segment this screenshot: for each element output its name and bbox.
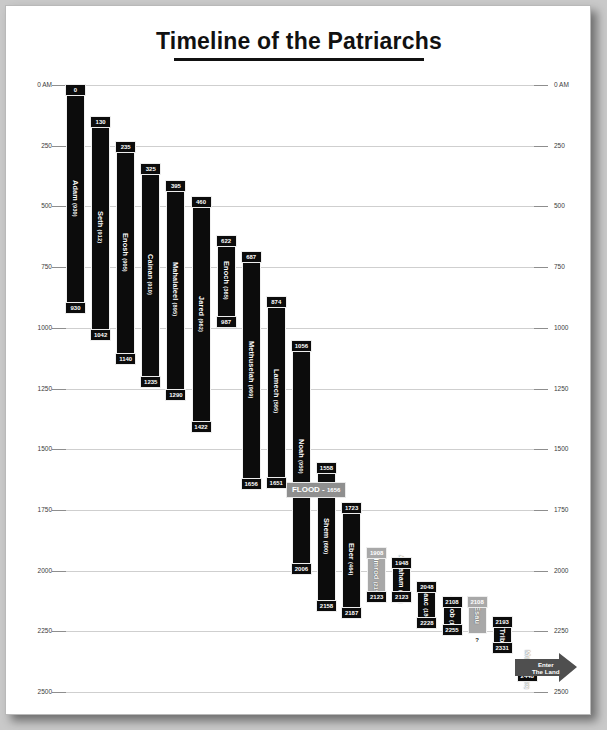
bar-lamech[interactable]: Lamech (595) — [267, 297, 286, 486]
tick-dash-left-1750 — [52, 510, 66, 511]
axis-tick-left-1250: 1250 — [16, 385, 52, 392]
tick-dash-left-1000 — [52, 328, 66, 329]
bar-methuselah[interactable]: Methuselah (969) — [242, 252, 261, 487]
axis-tick-right-1500: 1500 — [554, 445, 591, 452]
bar-start-year-shem: 1558 — [316, 462, 337, 474]
bar-start-year-methuselah: 687 — [241, 251, 262, 263]
tick-dash-right-2250 — [534, 631, 548, 632]
bar-adam[interactable]: Adam (930) — [66, 85, 85, 311]
flood-year: 1656 — [327, 487, 340, 493]
bar-label-jared: Jared (962) — [193, 198, 210, 430]
bar-label-adam: Adam (930) — [67, 86, 84, 310]
bar-start-year-12-tribes: 2193 — [492, 616, 513, 628]
bar-start-year-adam: 0 — [65, 84, 86, 96]
bar-end-year-cainan: 1235 — [140, 376, 161, 388]
tick-dash-right-250 — [534, 146, 548, 147]
bar-label-eber: Eber (464) — [343, 504, 360, 615]
bar-cainan[interactable]: Cainan (910) — [141, 164, 160, 385]
bar-label-seth: Seth (912) — [92, 118, 109, 337]
chart-page: Timeline of the Patriarchs 0 AM0 AM25025… — [5, 5, 591, 715]
bar-start-year-noah: 1056 — [291, 340, 312, 352]
flood-annotation: FLOOD - 1656 — [286, 482, 346, 498]
tick-dash-right-1500 — [534, 449, 548, 450]
bar-jared[interactable]: Jared (962) — [192, 197, 211, 431]
bar-end-year-nimrod: 2123 — [366, 591, 387, 603]
axis-tick-right-500: 500 — [554, 202, 591, 209]
gridline-0 — [58, 85, 540, 86]
tick-dash-right-500 — [534, 206, 548, 207]
bar-label-enosh: Enosh (905) — [117, 143, 134, 361]
axis-tick-right-2000: 2000 — [554, 567, 591, 574]
bar-end-year-eber: 2187 — [341, 607, 362, 619]
tick-dash-left-0 — [52, 85, 66, 86]
axis-tick-left-500: 500 — [16, 202, 52, 209]
tick-dash-left-1250 — [52, 389, 66, 390]
tick-dash-right-2000 — [534, 571, 548, 572]
bar-end-year-esau: ? — [467, 635, 488, 645]
bar-end-year-adam: 930 — [65, 302, 86, 314]
bar-mahalaleel[interactable]: Mahalaleel (895) — [166, 181, 185, 398]
tick-dash-left-500 — [52, 206, 66, 207]
bar-end-year-abraham: 2123 — [391, 591, 412, 603]
flood-label: FLOOD - — [292, 485, 327, 494]
bar-start-year-cainan: 325 — [140, 163, 161, 175]
axis-tick-right-2500: 2500 — [554, 688, 591, 695]
bar-label-lamech: Lamech (595) — [268, 298, 285, 485]
bar-end-year-noah: 2006 — [291, 563, 312, 575]
bar-start-year-enosh: 235 — [115, 141, 136, 153]
bar-enosh[interactable]: Enosh (905) — [116, 142, 135, 362]
bar-end-year-12-tribes: 2331 — [492, 642, 513, 654]
axis-tick-right-2250: 2250 — [554, 627, 591, 634]
bar-noah[interactable]: Noah (950) — [292, 341, 311, 572]
gridline-2500 — [58, 692, 540, 693]
bar-end-year-enoch: 987 — [216, 316, 237, 328]
tick-dash-right-750 — [534, 267, 548, 268]
axis-tick-left-250: 250 — [16, 142, 52, 149]
bar-enoch[interactable]: Enoch (365) — [217, 236, 236, 325]
bar-end-year-mahalaleel: 1290 — [165, 389, 186, 401]
bar-eber[interactable]: Eber (464) — [342, 503, 361, 616]
tick-dash-right-1250 — [534, 389, 548, 390]
tick-dash-right-0 — [534, 85, 548, 86]
axis-tick-left-2000: 2000 — [16, 567, 52, 574]
axis-tick-left-2250: 2250 — [16, 627, 52, 634]
axis-tick-right-1750: 1750 — [554, 506, 591, 513]
bar-label-enoch: Enoch (365) — [218, 237, 235, 324]
tick-dash-left-750 — [52, 267, 66, 268]
axis-tick-right-0: 0 AM — [554, 81, 591, 88]
enter-the-land-arrow: Enter The Land — [515, 653, 577, 687]
bar-start-year-abraham: 1948 — [391, 557, 412, 569]
bar-label-mahalaleel: Mahalaleel (895) — [167, 182, 184, 397]
bar-end-year-jacob: 2255 — [442, 624, 463, 636]
axis-tick-left-1750: 1750 — [16, 506, 52, 513]
axis-tick-left-1000: 1000 — [16, 324, 52, 331]
axis-tick-left-1500: 1500 — [16, 445, 52, 452]
bar-start-year-jared: 460 — [191, 196, 212, 208]
axis-tick-right-1000: 1000 — [554, 324, 591, 331]
bar-start-year-eber: 1723 — [341, 502, 362, 514]
tick-dash-left-250 — [52, 146, 66, 147]
arrow-line-1: Enter — [523, 661, 569, 668]
axis-tick-left-2500: 2500 — [16, 688, 52, 695]
axis-tick-left-750: 750 — [16, 263, 52, 270]
bar-end-year-methuselah: 1656 — [241, 478, 262, 490]
bar-start-year-jacob: 2108 — [442, 596, 463, 608]
bar-end-year-seth: 1042 — [90, 329, 111, 341]
enter-the-land-text: Enter The Land — [523, 661, 569, 675]
tick-dash-right-1750 — [534, 510, 548, 511]
bar-start-year-isaac: 2048 — [416, 581, 437, 593]
tick-dash-left-2500 — [52, 692, 66, 693]
tick-dash-right-2500 — [534, 692, 548, 693]
bar-end-year-isaac: 2228 — [416, 617, 437, 629]
tick-dash-right-1000 — [534, 328, 548, 329]
bar-start-year-seth: 130 — [90, 116, 111, 128]
bar-end-year-jared: 1422 — [191, 421, 212, 433]
bar-start-year-esau: 2108 — [467, 596, 488, 608]
axis-tick-right-1250: 1250 — [554, 385, 591, 392]
axis-tick-right-750: 750 — [554, 263, 591, 270]
axis-tick-right-250: 250 — [554, 142, 591, 149]
bar-label-cainan: Cainan (910) — [142, 165, 159, 384]
tick-dash-left-2000 — [52, 571, 66, 572]
bar-start-year-nimrod: 1908 — [366, 547, 387, 559]
bar-seth[interactable]: Seth (912) — [91, 117, 110, 338]
